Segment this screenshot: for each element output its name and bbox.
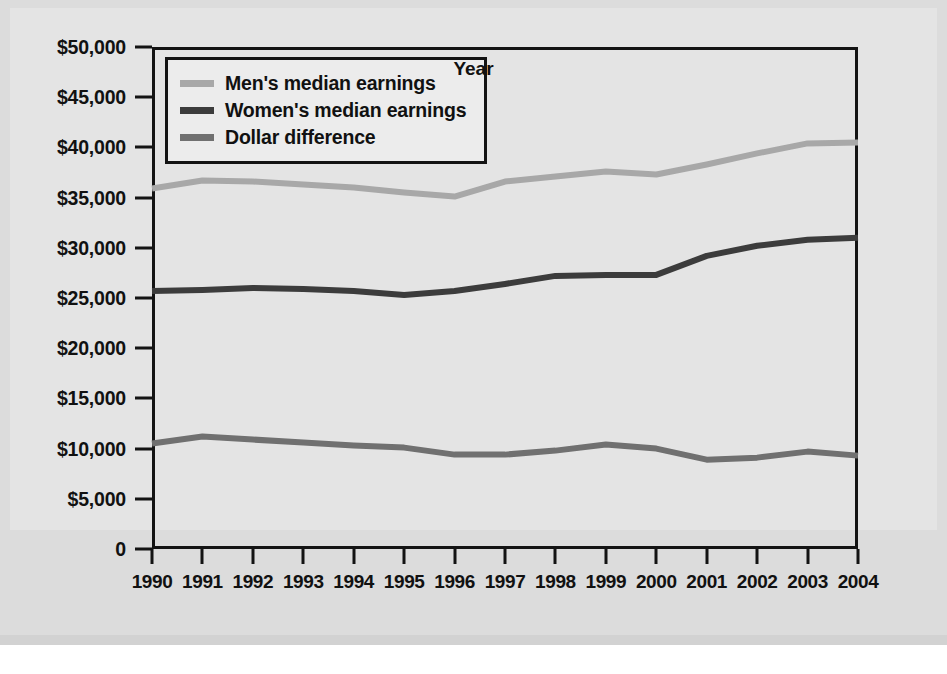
x-axis-title: Year (0, 58, 947, 80)
x-axis-tick-label: 2003 (787, 571, 828, 593)
legend-item-label: Women's median earnings (225, 99, 466, 122)
y-axis-tick-label: $10,000 (57, 437, 126, 460)
x-axis-tick-mark (201, 549, 204, 564)
x-axis-tick-mark (554, 549, 557, 564)
x-axis-tick-mark (604, 549, 607, 564)
x-axis-tick-label: 1990 (132, 571, 173, 593)
legend-color-swatch (180, 80, 214, 87)
x-axis-tick-label: 1995 (384, 571, 425, 593)
y-axis-tick-label: $15,000 (57, 387, 126, 410)
x-axis-tick-label: 2000 (636, 571, 677, 593)
y-axis-tick-mark (135, 46, 152, 49)
y-axis-tick-mark (135, 497, 152, 500)
x-axis-tick-mark (302, 549, 305, 564)
legend-item-label: Dollar difference (225, 126, 375, 149)
series-line (152, 437, 858, 460)
y-axis-tick-label: $25,000 (57, 287, 126, 310)
y-axis-tick-mark (135, 146, 152, 149)
x-axis-tick-mark (756, 549, 759, 564)
y-axis-tick-mark (135, 196, 152, 199)
legend-color-swatch (180, 134, 214, 141)
x-axis-tick-mark (151, 549, 154, 564)
y-axis-tick-mark (135, 397, 152, 400)
x-axis-tick-label: 1999 (586, 571, 627, 593)
x-axis-tick-mark (251, 549, 254, 564)
y-axis: 0$5,000$10,000$15,000$20,000$25,000$30,0… (0, 0, 152, 600)
x-axis-tick-mark (705, 549, 708, 564)
y-axis-tick-mark (135, 297, 152, 300)
x-axis-tick-label: 1991 (182, 571, 223, 593)
x-axis-tick-mark (655, 549, 658, 564)
x-axis-tick-label: 1993 (283, 571, 324, 593)
x-axis-tick-mark (403, 549, 406, 564)
x-axis-tick-label: 1992 (233, 571, 274, 593)
x-axis-tick-label: 2001 (686, 571, 727, 593)
y-axis-tick-label: $5,000 (68, 487, 126, 510)
y-axis-tick-label: $50,000 (57, 36, 126, 59)
y-axis-tick-label: $45,000 (57, 86, 126, 109)
legend-item: Dollar difference (180, 124, 466, 151)
x-axis-tick-mark (352, 549, 355, 564)
x-axis-tick-mark (504, 549, 507, 564)
legend-color-swatch (180, 107, 214, 114)
y-axis-tick-label: $30,000 (57, 236, 126, 259)
y-axis-tick-mark (135, 447, 152, 450)
x-axis-tick-mark (857, 549, 860, 564)
line-chart: 0$5,000$10,000$15,000$20,000$25,000$30,0… (0, 0, 947, 645)
x-axis-tick-mark (453, 549, 456, 564)
y-axis-tick-label: $20,000 (57, 337, 126, 360)
x-axis-tick-label: 2004 (838, 571, 879, 593)
legend-item: Women's median earnings (180, 97, 466, 124)
x-axis-tick-label: 1997 (485, 571, 526, 593)
figure-panel: 0$5,000$10,000$15,000$20,000$25,000$30,0… (0, 0, 947, 645)
y-axis-tick-label: $35,000 (57, 186, 126, 209)
x-axis-tick-label: 2002 (737, 571, 778, 593)
y-axis-tick-mark (135, 347, 152, 350)
y-axis-tick-mark (135, 96, 152, 99)
x-axis-tick-label: 1998 (535, 571, 576, 593)
x-axis-tick-label: 1994 (333, 571, 374, 593)
series-line (152, 238, 858, 295)
x-axis-tick-mark (806, 549, 809, 564)
y-axis-tick-mark (135, 246, 152, 249)
x-axis-tick-label: 1996 (434, 571, 475, 593)
x-axis: 1990199119921993199419951996199719981999… (0, 549, 947, 645)
y-axis-tick-label: $40,000 (57, 136, 126, 159)
